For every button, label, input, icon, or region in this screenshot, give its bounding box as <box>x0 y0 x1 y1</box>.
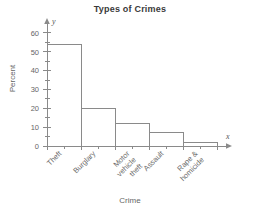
bar <box>81 108 115 146</box>
y-axis-arrow-icon <box>44 18 50 24</box>
x-category-label: Motorvehicletheft <box>109 148 145 184</box>
bar <box>47 44 81 146</box>
chart-container: Types of Crimes Percent Crime y 01020304… <box>0 0 260 215</box>
plot-area: y 0102030405060 x TheftBurglaryMotorvehi… <box>0 0 260 215</box>
y-tick-label: 0 <box>35 142 39 151</box>
x-category-label: Assault <box>142 148 166 172</box>
x-category-label-line: Burglary <box>71 149 97 175</box>
y-tick-label: 60 <box>31 29 39 38</box>
x-axis-variable-label: x <box>225 132 230 141</box>
bar-series <box>47 44 217 146</box>
y-tick-label: 50 <box>31 48 39 57</box>
y-tick-group: 0102030405060 <box>31 29 51 151</box>
y-tick-label: 20 <box>31 104 39 113</box>
x-category-label: Burglary <box>71 149 97 175</box>
bar <box>183 142 217 146</box>
bar <box>115 123 149 146</box>
category-label-group: TheftBurglaryMotorvehicletheftAssaultRap… <box>45 148 206 184</box>
y-tick-label: 40 <box>31 66 39 75</box>
x-axis-group: x <box>47 132 232 150</box>
x-category-label: Rape &homicide <box>172 149 206 183</box>
y-tick-label: 10 <box>31 123 39 132</box>
x-axis-arrow-icon <box>226 143 232 149</box>
y-tick-label: 30 <box>31 85 39 94</box>
x-category-label: Theft <box>45 148 64 167</box>
y-axis-group: y 0102030405060 <box>31 17 56 151</box>
y-axis-variable-label: y <box>51 17 56 26</box>
x-category-label-line: Assault <box>142 148 166 172</box>
bar <box>149 133 183 146</box>
x-category-label-line: Theft <box>45 148 64 167</box>
